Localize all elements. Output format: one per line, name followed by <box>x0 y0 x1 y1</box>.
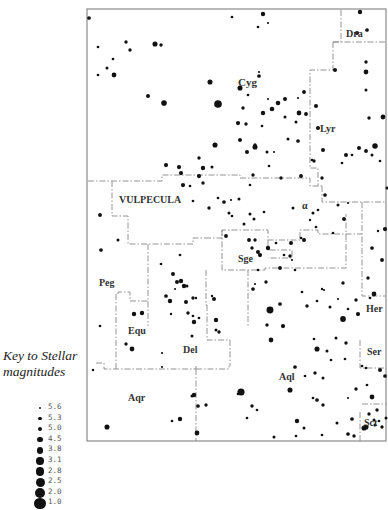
star <box>367 116 370 119</box>
star <box>92 369 95 372</box>
star <box>325 349 328 352</box>
star <box>265 323 268 326</box>
star <box>380 425 383 428</box>
star <box>268 165 271 168</box>
star <box>295 419 299 423</box>
star <box>321 403 324 406</box>
constellation-label: Sct <box>364 417 378 428</box>
star <box>217 197 220 200</box>
star <box>190 334 193 337</box>
constellation-label: Equ <box>128 325 146 336</box>
star <box>161 352 163 354</box>
star <box>253 238 256 241</box>
star <box>230 199 232 201</box>
star <box>250 246 253 249</box>
star <box>231 16 234 19</box>
star <box>231 215 234 218</box>
star <box>379 160 382 163</box>
star <box>201 181 204 184</box>
star <box>261 125 264 128</box>
star <box>330 359 333 362</box>
constellation-label: Peg <box>99 277 115 288</box>
star <box>365 367 368 370</box>
star <box>297 97 299 99</box>
star <box>323 193 327 197</box>
star <box>212 297 216 301</box>
star <box>140 311 144 315</box>
star <box>178 417 182 421</box>
star <box>342 217 346 221</box>
star <box>195 297 197 299</box>
star <box>179 254 182 257</box>
star <box>116 238 119 241</box>
magnitude-key-title: Key to Stellar magnitudes <box>3 348 77 380</box>
star <box>347 202 349 204</box>
star <box>236 121 240 125</box>
star <box>198 317 201 320</box>
star <box>265 150 268 153</box>
star <box>283 254 286 257</box>
star <box>112 73 117 78</box>
star <box>383 227 387 231</box>
star <box>99 248 103 252</box>
star <box>266 246 270 250</box>
star <box>152 41 157 46</box>
star <box>179 279 183 283</box>
star <box>99 325 102 328</box>
star <box>159 43 162 46</box>
magnitude-label: 5.3 <box>48 413 62 422</box>
star <box>195 431 200 436</box>
constellation-label: α <box>302 200 308 211</box>
star <box>276 101 281 106</box>
star <box>132 312 136 316</box>
star <box>301 291 304 294</box>
star <box>288 254 291 257</box>
star <box>289 241 293 245</box>
map-frame <box>87 9 386 441</box>
star <box>267 98 269 100</box>
star <box>171 420 174 423</box>
star <box>253 143 256 146</box>
star <box>314 346 319 351</box>
star <box>370 395 375 400</box>
star <box>305 304 308 307</box>
star <box>211 295 213 297</box>
star <box>161 366 163 368</box>
star <box>299 174 303 178</box>
constellation-label: Ser <box>367 346 382 357</box>
star <box>256 409 259 412</box>
star <box>366 384 369 387</box>
constellation-label: Sge <box>238 253 254 264</box>
star <box>87 16 91 20</box>
star <box>320 176 323 179</box>
star <box>283 115 286 118</box>
magnitude-label: 1.0 <box>48 497 62 506</box>
star <box>364 149 368 153</box>
magnitude-dot-icon <box>36 457 43 464</box>
star <box>269 338 274 343</box>
constellation-label: Del <box>183 344 198 355</box>
magnitude-dot-icon <box>38 417 41 420</box>
star <box>164 163 168 167</box>
star <box>192 200 195 203</box>
star <box>247 94 250 97</box>
star <box>224 234 228 238</box>
star <box>283 97 287 101</box>
magnitude-label: 4.5 <box>48 434 62 443</box>
star <box>334 336 337 339</box>
star <box>237 197 240 200</box>
star <box>372 292 377 297</box>
magnitude-dot-icon <box>36 467 44 475</box>
star <box>317 209 320 212</box>
star <box>291 206 294 209</box>
magnitude-label: 2.0 <box>48 487 62 496</box>
star <box>171 272 175 276</box>
star <box>270 107 275 112</box>
star <box>370 153 373 156</box>
star <box>161 100 167 106</box>
star <box>302 426 305 429</box>
star <box>237 393 240 396</box>
star <box>323 289 325 291</box>
star <box>383 374 387 378</box>
star <box>168 299 172 303</box>
